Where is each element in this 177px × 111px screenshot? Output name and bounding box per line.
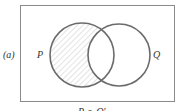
set-p-label: P [36,49,43,60]
set-q-label: Q [153,49,161,60]
part-label: (a) [3,49,15,61]
venn-diagram: (a) P Q P ∩ Q' [0,0,177,111]
caption: P ∩ Q' [77,106,106,111]
